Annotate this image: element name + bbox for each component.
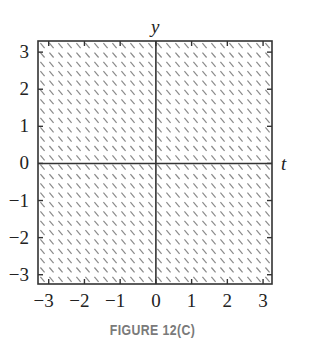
slope-segment	[220, 174, 224, 179]
slope-segment	[229, 90, 233, 95]
slope-segment	[130, 268, 134, 273]
slope-segment	[148, 155, 152, 160]
slope-segment	[157, 90, 161, 95]
t-axis-label: t	[281, 153, 287, 174]
slope-segment	[256, 90, 260, 95]
slope-segment	[103, 109, 107, 114]
slope-segment	[265, 109, 269, 114]
slope-segment	[175, 230, 179, 235]
slope-segment	[67, 202, 71, 207]
slope-segment	[112, 146, 116, 151]
slope-segment	[130, 90, 134, 95]
slope-segment	[193, 90, 197, 95]
slope-segment	[193, 81, 197, 86]
slope-segment	[139, 81, 143, 86]
slope-segment	[67, 137, 71, 142]
slope-segment	[148, 258, 152, 263]
y-axis-label: y	[149, 16, 160, 37]
slope-segment	[49, 155, 53, 160]
slope-segment	[193, 239, 197, 244]
slope-segment	[94, 71, 98, 76]
slope-segment	[238, 146, 242, 151]
slope-segment	[211, 230, 215, 235]
slope-segment	[130, 277, 134, 282]
slope-segment	[121, 137, 125, 142]
slope-segment	[220, 258, 224, 263]
slope-segment	[112, 183, 116, 188]
x-tick-label: 0	[151, 290, 161, 311]
y-tick-label: 1	[20, 115, 30, 136]
slope-segment	[202, 118, 206, 123]
slope-segment	[184, 146, 188, 151]
slope-segment	[94, 258, 98, 263]
slope-segment	[211, 43, 215, 48]
slope-segment	[265, 211, 269, 216]
slope-segment	[58, 53, 62, 58]
slope-segment	[76, 193, 80, 198]
slope-segment	[130, 109, 134, 114]
slope-segment	[265, 239, 269, 244]
slope-segment	[67, 127, 71, 132]
slope-segment	[202, 258, 206, 263]
slope-segment	[166, 109, 170, 114]
slope-segment	[67, 174, 71, 179]
slope-segment	[256, 109, 260, 114]
slope-segment	[175, 258, 179, 263]
slope-segment	[202, 62, 206, 67]
slope-segment	[49, 211, 53, 216]
slope-segment	[238, 62, 242, 67]
slope-segment	[175, 137, 179, 142]
slope-segment	[94, 221, 98, 226]
slope-segment	[202, 99, 206, 104]
slope-segment	[148, 211, 152, 216]
slope-segment	[148, 99, 152, 104]
slope-segment	[175, 109, 179, 114]
slope-segment	[139, 239, 143, 244]
slope-segment	[40, 193, 44, 198]
slope-segment	[265, 71, 269, 76]
slope-segment	[256, 268, 260, 273]
slope-segment	[67, 43, 71, 48]
slope-segment	[157, 137, 161, 142]
slope-segment	[40, 211, 44, 216]
slope-segment	[211, 165, 215, 170]
slope-segment	[157, 202, 161, 207]
slope-segment	[76, 258, 80, 263]
slope-segment	[76, 118, 80, 123]
slope-segment	[58, 155, 62, 160]
slope-segment	[121, 81, 125, 86]
slope-segment	[193, 118, 197, 123]
slope-segment	[40, 249, 44, 254]
slope-segment	[40, 71, 44, 76]
slope-segment	[94, 43, 98, 48]
slope-segment	[229, 202, 233, 207]
slope-segment	[130, 53, 134, 58]
slope-segment	[238, 155, 242, 160]
slope-segment	[103, 155, 107, 160]
slope-segments	[40, 43, 269, 282]
slope-segment	[202, 249, 206, 254]
slope-segment	[58, 202, 62, 207]
slope-segment	[157, 165, 161, 170]
slope-segment	[121, 99, 125, 104]
slope-segment	[49, 43, 53, 48]
slope-segment	[67, 109, 71, 114]
slope-segment	[148, 62, 152, 67]
slope-segment	[238, 230, 242, 235]
slope-segment	[202, 221, 206, 226]
slope-segment	[103, 211, 107, 216]
slope-segment	[112, 137, 116, 142]
slope-segment	[157, 268, 161, 273]
slope-segment	[193, 174, 197, 179]
slope-segment	[103, 146, 107, 151]
slope-segment	[220, 221, 224, 226]
slope-segment	[211, 53, 215, 58]
slope-segment	[112, 53, 116, 58]
slope-segment	[103, 221, 107, 226]
slope-segment	[175, 71, 179, 76]
slope-segment	[139, 53, 143, 58]
slope-segment	[229, 146, 233, 151]
slope-segment	[85, 230, 89, 235]
slope-segment	[220, 53, 224, 58]
slope-segment	[49, 221, 53, 226]
